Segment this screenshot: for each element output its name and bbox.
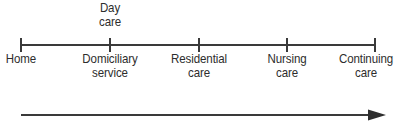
label-nursing-care-line2: care bbox=[241, 67, 334, 81]
label-home-line1: Home bbox=[1, 53, 40, 67]
label-nursing-care-line1: Nursing bbox=[241, 53, 334, 67]
care-continuum-figure: Day care Home Domiciliary service Reside… bbox=[0, 0, 407, 129]
label-nursing-care: Nursing care bbox=[241, 53, 334, 80]
label-day-care-line1: Day bbox=[64, 2, 157, 16]
label-domiciliary-service-line2: service bbox=[64, 67, 157, 81]
label-domiciliary-service-line1: Domiciliary bbox=[64, 53, 157, 67]
label-day-care: Day care bbox=[64, 2, 157, 29]
label-residential-care: Residential care bbox=[153, 53, 246, 80]
label-continuing-care: Continuing care bbox=[328, 53, 404, 80]
label-residential-care-line1: Residential bbox=[153, 53, 246, 67]
label-domiciliary-service: Domiciliary service bbox=[64, 53, 157, 80]
label-continuing-care-line2: care bbox=[328, 67, 404, 81]
label-residential-care-line2: care bbox=[153, 67, 246, 81]
label-continuing-care-line1: Continuing bbox=[328, 53, 404, 67]
label-home: Home bbox=[1, 53, 40, 67]
flow-arrow-head bbox=[368, 110, 386, 121]
label-day-care-line2: care bbox=[64, 16, 157, 30]
